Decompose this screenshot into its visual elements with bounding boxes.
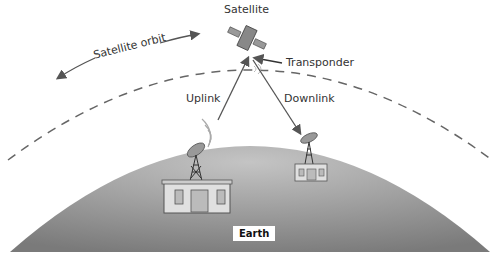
transponder-pointer bbox=[255, 58, 282, 63]
diagram-graphics bbox=[0, 0, 500, 259]
signal-waves-icon bbox=[202, 119, 211, 147]
satellite-communication-diagram: Satellite Satellite orbit Transponder Up… bbox=[0, 0, 500, 259]
earth-label: Earth bbox=[233, 226, 275, 241]
downlink-label: Downlink bbox=[284, 92, 335, 105]
satellite-icon bbox=[224, 20, 270, 57]
orbit-arrow-left bbox=[58, 58, 95, 78]
uplink-label: Uplink bbox=[186, 92, 221, 105]
uplink-arrow bbox=[218, 58, 248, 120]
transponder-label: Transponder bbox=[286, 56, 354, 69]
satellite-label: Satellite bbox=[224, 3, 269, 16]
